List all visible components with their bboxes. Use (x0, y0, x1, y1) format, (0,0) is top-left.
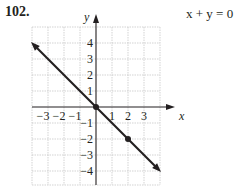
y-axis-label: y (83, 10, 90, 24)
graph: x y −3−2−11234321−1−2−3−4 (0, 0, 240, 189)
y-tick-label: −3 (80, 148, 93, 162)
y-tick-label: 4 (87, 36, 93, 50)
y-tick-label: 3 (87, 52, 93, 66)
plotted-point (125, 136, 131, 142)
x-tick-label: −3 (37, 109, 50, 123)
y-axis-arrow-icon (93, 14, 99, 23)
x-tick-label: −2 (53, 109, 66, 123)
y-tick-label: −2 (80, 132, 93, 146)
axes: x y (32, 10, 185, 185)
y-tick-label: 1 (87, 84, 93, 98)
x-axis-arrow-icon (166, 104, 175, 110)
x-axis-label: x (178, 109, 185, 123)
x-tick-label: 3 (141, 109, 147, 123)
y-tick-label: −4 (80, 164, 93, 178)
y-tick-label: 2 (87, 68, 93, 82)
y-tick-label: −1 (80, 116, 93, 130)
x-tick-label: 2 (125, 109, 131, 123)
plotted-point (93, 104, 99, 110)
